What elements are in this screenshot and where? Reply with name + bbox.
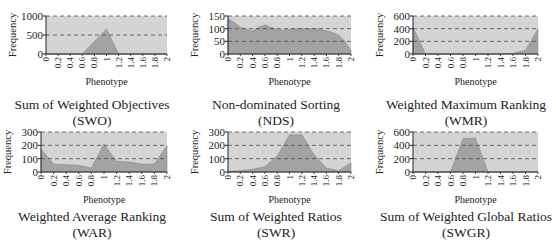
y-tick-label: 600 bbox=[394, 126, 411, 138]
y-tick-label: 400 bbox=[394, 139, 411, 151]
chart-caption: Sum of Weighted Global Ratios(SWGR) bbox=[376, 209, 556, 241]
x-tick-label: 1.4 bbox=[496, 175, 506, 187]
x-tick-label: 1.6 bbox=[508, 175, 518, 187]
y-tick-label: 200 bbox=[394, 153, 411, 165]
x-tick-label: 1 bbox=[471, 175, 481, 180]
y-axis-label: Frequency bbox=[374, 129, 385, 174]
x-tick-label: 0.4 bbox=[433, 175, 443, 187]
x-tick-label: 0.8 bbox=[458, 175, 468, 187]
x-tick-label: 0.6 bbox=[446, 175, 456, 187]
chart-abbreviation: (SWGR) bbox=[376, 225, 556, 241]
x-tick-label: 1.2 bbox=[483, 175, 493, 186]
x-tick-label: 0.2 bbox=[421, 175, 431, 186]
x-tick-label: 1.8 bbox=[521, 175, 531, 187]
chart-title: Sum of Weighted Global Ratios bbox=[376, 209, 556, 225]
x-tick-label: 2 bbox=[533, 175, 543, 180]
x-axis-label: Phenotype bbox=[454, 194, 497, 205]
x-tick-label: 0 bbox=[408, 175, 418, 180]
